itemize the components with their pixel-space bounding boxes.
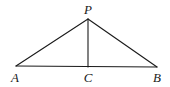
- label-c: C: [84, 70, 93, 85]
- triangle-diagram: P A C B: [0, 0, 170, 87]
- segment-ab: [16, 66, 157, 67]
- label-b: B: [153, 70, 161, 85]
- label-p: P: [83, 2, 92, 17]
- label-a: A: [10, 70, 19, 85]
- segment-pb: [88, 19, 157, 67]
- segment-ap: [16, 19, 88, 66]
